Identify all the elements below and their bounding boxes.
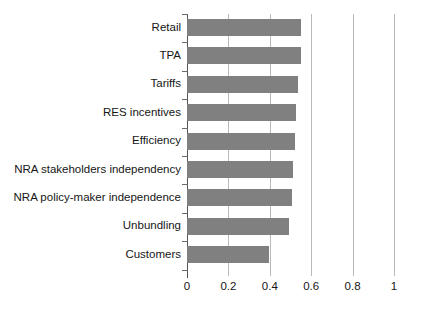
x-tick-label: 0.4 <box>262 281 278 293</box>
category-label: Customers <box>0 249 181 261</box>
bar <box>187 189 292 206</box>
bar-row: TPA <box>187 42 423 70</box>
bar-row: Unbundling <box>187 213 423 241</box>
bar-row: RES incentives <box>187 99 423 127</box>
x-tick-label: 0.8 <box>345 281 361 293</box>
x-tick-label: 0.6 <box>303 281 319 293</box>
bar-row: Customers <box>187 241 423 269</box>
bar <box>187 218 289 235</box>
x-tick-label: 0.2 <box>220 281 236 293</box>
category-label: Tariffs <box>0 78 181 90</box>
bar-row: NRA stakeholders independency <box>187 156 423 184</box>
x-tick-label: 1 <box>391 281 397 293</box>
bar-row: Tariffs <box>187 71 423 99</box>
bar-chart: RetailTPATariffsRES incentivesEfficiency… <box>0 0 423 310</box>
category-label: NRA policy-maker independence <box>0 192 181 204</box>
bar-row: NRA policy-maker independence <box>187 184 423 212</box>
bar <box>187 133 295 150</box>
bars-layer: RetailTPATariffsRES incentivesEfficiency… <box>187 14 423 278</box>
category-label: NRA stakeholders independency <box>0 164 181 176</box>
bar <box>187 19 301 36</box>
bar <box>187 161 293 178</box>
bar <box>187 104 296 121</box>
category-label: Retail <box>0 22 181 34</box>
bar <box>187 47 301 64</box>
bar-row: Retail <box>187 14 423 42</box>
category-label: Efficiency <box>0 135 181 147</box>
category-label: RES incentives <box>0 107 181 119</box>
category-label: Unbundling <box>0 220 181 232</box>
bar <box>187 246 269 263</box>
bar <box>187 76 298 93</box>
bar-row: Efficiency <box>187 128 423 156</box>
category-label: TPA <box>0 50 181 62</box>
x-tick-label: 0 <box>184 281 190 293</box>
